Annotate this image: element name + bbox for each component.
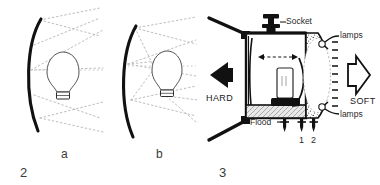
- socket-flange: [262, 24, 280, 28]
- caption-a: a: [61, 148, 68, 160]
- panel-2b-group: [124, 17, 198, 137]
- socket-neck: [267, 28, 276, 33]
- reflector-2a: [29, 19, 41, 131]
- soft-arrow-icon: [348, 56, 370, 94]
- flood-contacts: [281, 118, 319, 132]
- contact-label-2: 2: [311, 136, 316, 145]
- yoke-arm-upper: [209, 18, 243, 33]
- contact-pin-2: [310, 118, 319, 132]
- contact-pin-flood: [281, 118, 290, 132]
- diagram-canvas: a b 2 3 Socket HARD SOFT lamps lamps Flo…: [0, 0, 380, 185]
- hard-arrow-icon: [210, 62, 228, 88]
- panel-2a-group: [29, 8, 104, 132]
- socket-cap: [263, 14, 279, 19]
- lamps-label-top: lamps: [340, 31, 363, 40]
- reflector-2b: [124, 26, 136, 137]
- lamps-leader-top: [325, 36, 339, 42]
- internal-lamp-body: [277, 68, 293, 98]
- hard-label: HARD: [206, 94, 233, 103]
- figure-number-2: 2: [20, 166, 27, 179]
- socket-assembly: [262, 14, 280, 33]
- soft-emission-ticks: [332, 42, 338, 106]
- light-bulb-2a: [47, 52, 79, 99]
- lighting-diagram-svg: [0, 0, 380, 185]
- soft-light-envelope: [304, 39, 331, 113]
- hard-arrow-tail: [226, 68, 233, 82]
- contact-pin-1: [298, 118, 307, 132]
- lamps-leader-bottom: [325, 109, 339, 114]
- yoke-arm-lower: [209, 122, 243, 140]
- figure-number-3: 3: [219, 166, 226, 179]
- socket-label: Socket: [286, 17, 312, 26]
- socket-stem: [268, 18, 274, 24]
- caption-b: b: [156, 148, 163, 160]
- lamps-label-bottom: lamps: [340, 110, 363, 119]
- flood-label: Flood: [250, 118, 271, 127]
- soft-label: SOFT: [350, 97, 376, 106]
- contact-label-1: 1: [299, 136, 304, 145]
